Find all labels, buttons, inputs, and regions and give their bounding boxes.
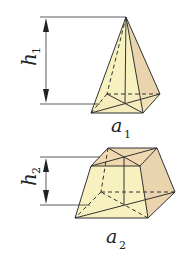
- frustum-height-label: h 2: [17, 167, 43, 186]
- svg-text:1: 1: [30, 47, 43, 54]
- pyramid-frustum-diagram: h 1 a 1: [0, 0, 184, 265]
- pyramid: h 1 a 1: [17, 17, 160, 141]
- up-arrow-icon: [43, 158, 49, 172]
- svg-text:2: 2: [119, 239, 126, 252]
- svg-text:1: 1: [124, 128, 131, 141]
- up-arrow-icon: [43, 18, 49, 32]
- svg-text:h: h: [17, 53, 41, 66]
- frustum-base-label: a 2: [106, 225, 126, 252]
- frustum: h 2 a 2: [17, 148, 175, 252]
- pyramid-base-label: a 1: [111, 114, 131, 141]
- down-arrow-icon: [43, 89, 49, 103]
- svg-text:h: h: [17, 173, 41, 186]
- pyramid-height-label: h 1: [17, 47, 43, 66]
- svg-text:2: 2: [30, 167, 43, 174]
- svg-text:a: a: [111, 114, 122, 136]
- down-arrow-icon: [43, 190, 49, 204]
- svg-text:a: a: [106, 225, 117, 247]
